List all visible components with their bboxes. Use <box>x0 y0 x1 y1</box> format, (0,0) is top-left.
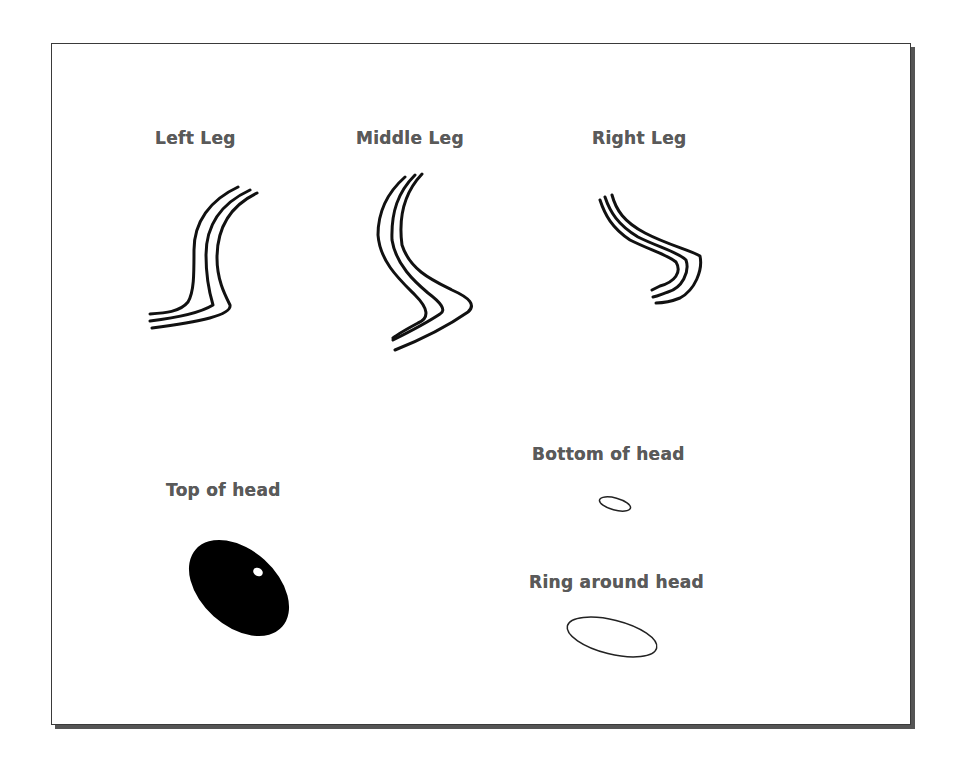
bottom-of-head-shape <box>598 494 632 514</box>
left-leg-shape <box>150 187 257 328</box>
top-of-head-shape <box>170 521 307 655</box>
ring-around-head-shape <box>563 609 660 664</box>
middle-leg-shape <box>378 174 471 350</box>
diagram-canvas <box>0 0 961 759</box>
right-leg-shape <box>600 195 701 303</box>
